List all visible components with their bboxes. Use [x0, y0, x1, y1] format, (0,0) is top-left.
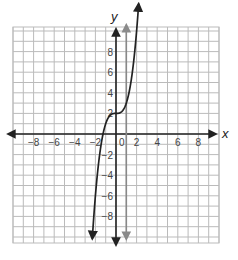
y-tick-label: 8 [107, 47, 113, 58]
x-axis-label: x [221, 126, 229, 141]
x-tick-label: 6 [175, 137, 181, 148]
x-tick-label: −2 [90, 137, 102, 148]
y-tick-label: −8 [102, 211, 114, 222]
x-tick-label: 8 [196, 137, 202, 148]
y-tick-label: −2 [102, 150, 114, 161]
x-tick-label: 4 [154, 137, 160, 148]
y-tick-label: −4 [102, 170, 114, 181]
x-tick-label: −8 [28, 137, 40, 148]
x-tick-label: 2 [134, 137, 140, 148]
x-tick-label: −6 [48, 137, 60, 148]
y-tick-label: 6 [107, 67, 113, 78]
y-tick-label: −6 [102, 191, 114, 202]
graph: −8−6−4−2024688642−2−4−6−8 x y [0, 0, 238, 260]
x-tick-label: 0 [119, 137, 125, 148]
x-tick-label: −4 [69, 137, 81, 148]
y-axis-label: y [110, 9, 119, 24]
y-tick-label: 4 [107, 88, 113, 99]
